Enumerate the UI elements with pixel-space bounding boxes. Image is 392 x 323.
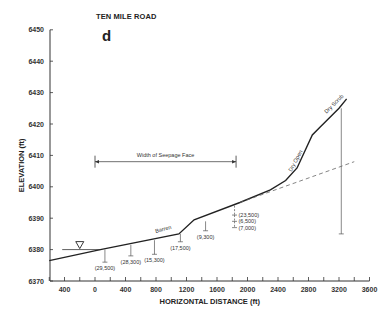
x-tick-label: 3200 bbox=[331, 286, 347, 293]
piezometer-label: (28,300) bbox=[121, 259, 142, 265]
y-tick-label: 6370 bbox=[28, 278, 44, 285]
x-tick-label: 400 bbox=[120, 286, 132, 293]
piezometer-label: (9,300) bbox=[197, 234, 215, 240]
piezometer-label: (15,300) bbox=[144, 257, 165, 263]
x-tick-label: 2800 bbox=[301, 286, 317, 293]
y-tick-label: 6440 bbox=[28, 58, 44, 65]
x-tick-label: 1200 bbox=[179, 286, 195, 293]
x-tick-label: 800 bbox=[150, 286, 162, 293]
piezometer-label: (17,500) bbox=[170, 245, 191, 251]
x-tick-label: 400 bbox=[59, 286, 71, 293]
x-tick-label: 2000 bbox=[240, 286, 256, 293]
y-tick-label: 6390 bbox=[28, 215, 44, 222]
piezometer-label: (29,500) bbox=[95, 265, 116, 271]
piezometer-label: (23,500) bbox=[239, 212, 260, 218]
y-tick-label: 6380 bbox=[28, 246, 44, 253]
x-tick-label: 3600 bbox=[362, 286, 378, 293]
x-tick-label: 2400 bbox=[270, 286, 286, 293]
y-tick-label: 6450 bbox=[28, 26, 44, 33]
x-tick-label: 0 bbox=[93, 286, 97, 293]
y-tick-label: 6430 bbox=[28, 89, 44, 96]
y-tick-label: 6410 bbox=[28, 152, 44, 159]
x-axis-title: HORIZONTAL DISTANCE (ft) bbox=[160, 297, 261, 306]
chart-area: 6370638063906400641064206430644064504000… bbox=[0, 0, 392, 323]
arrow-left-icon bbox=[95, 160, 99, 164]
arrow-right-icon bbox=[232, 160, 236, 164]
surface-label: Barren bbox=[154, 224, 172, 234]
y-axis-title: ELEVATION (ft) bbox=[17, 138, 26, 192]
water-level-triangle-icon bbox=[76, 242, 84, 249]
y-tick-label: 6420 bbox=[28, 121, 44, 128]
piezometer-label: (7,000) bbox=[239, 225, 257, 231]
piezometer-label: (6,500) bbox=[239, 218, 257, 224]
y-tick-label: 6400 bbox=[28, 183, 44, 190]
x-tick-label: 1600 bbox=[209, 286, 225, 293]
seepage-face-label: Width of Seepage Face bbox=[137, 152, 194, 158]
